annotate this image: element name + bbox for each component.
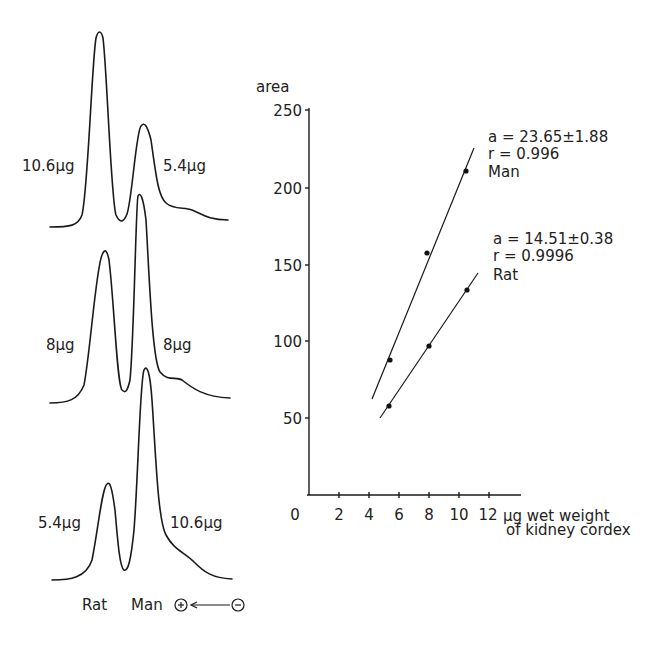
man-r: r = 0.996 <box>488 145 559 163</box>
arrow-left-icon <box>191 602 230 608</box>
y-tick-100: 100 <box>273 333 302 351</box>
cathode-minus-icon <box>232 599 244 611</box>
man-point-10.6 <box>463 168 468 173</box>
man-point-8 <box>424 250 429 255</box>
x-tick-0: 0 <box>290 506 300 524</box>
rat-annotation: a = 14.51±0.38 r = 0.9996 Rat <box>493 230 613 284</box>
man-annotation: a = 23.65±1.88 r = 0.996 Man <box>488 128 608 181</box>
rat-slope: a = 14.51±0.38 <box>493 230 613 248</box>
x-tick-2: 2 <box>334 506 344 524</box>
electrophoresis-direction: Rat Man <box>82 596 244 614</box>
trace-2-left-label: 8μg <box>46 336 75 354</box>
trace-3-right-label: 10.6μg <box>170 514 222 532</box>
series-man <box>372 148 474 399</box>
rat-label: Rat <box>82 596 107 614</box>
rat-point-8 <box>426 343 431 348</box>
y-tick-250: 250 <box>273 102 302 120</box>
figure-canvas: 10.6μg 5.4μg 8μg 8μg 5.4μg 10.6μg Rat Ma… <box>0 0 669 647</box>
man-series-label: Man <box>488 163 520 181</box>
anode-plus-icon <box>175 599 187 611</box>
x-tick-4: 4 <box>364 506 374 524</box>
rat-point-5.4 <box>386 403 391 408</box>
regression-chart: area 250 200 150 100 50 0 2 4 6 8 10 12 … <box>256 78 631 539</box>
rat-point-10.6 <box>464 287 469 292</box>
trace-3 <box>52 368 232 580</box>
x-tick-12: 12 <box>478 506 497 524</box>
trace-1-right-label: 5.4μg <box>163 157 206 175</box>
man-slope: a = 23.65±1.88 <box>488 128 608 146</box>
y-tick-50: 50 <box>283 410 302 428</box>
y-tick-200: 200 <box>273 180 302 198</box>
y-axis-label: area <box>256 78 289 96</box>
trace-3-left-label: 5.4μg <box>38 514 81 532</box>
man-fit-line <box>372 148 474 399</box>
trace-2-right-label: 8μg <box>163 336 192 354</box>
x-tick-10: 10 <box>449 506 468 524</box>
trace-1 <box>50 32 228 227</box>
x-tick-8: 8 <box>424 506 434 524</box>
man-label: Man <box>131 596 163 614</box>
densitometer-traces <box>50 32 232 580</box>
trace-1-left-label: 10.6μg <box>22 157 74 175</box>
x-tick-6: 6 <box>394 506 404 524</box>
trace-labels: 10.6μg 5.4μg 8μg 8μg 5.4μg 10.6μg <box>22 157 222 532</box>
x-axis-label-line2: of kidney cordex <box>506 521 631 539</box>
rat-r: r = 0.9996 <box>493 247 574 265</box>
y-tick-150: 150 <box>273 257 302 275</box>
man-point-5.4 <box>387 357 392 362</box>
rat-series-label: Rat <box>493 266 518 284</box>
series-rat <box>380 273 478 418</box>
trace-2 <box>50 195 230 403</box>
